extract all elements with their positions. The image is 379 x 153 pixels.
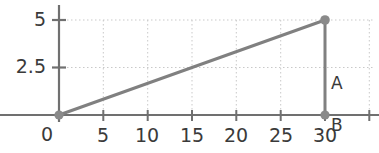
plot-area: 5 2.5 5 10 15 20 25 30 0 A B [0, 0, 379, 153]
annotation-label-a: A [331, 75, 343, 92]
annotation-label-b: B [331, 117, 343, 134]
x-tick-label-25: 25 [266, 126, 296, 145]
origin-label: 0 [41, 125, 53, 144]
marker-foot [320, 110, 329, 119]
y-tick-label-2-5: 2.5 [0, 57, 46, 76]
x-tick-label-15: 15 [177, 126, 207, 145]
x-tick-label-20: 20 [221, 126, 251, 145]
marker-top [320, 15, 330, 25]
horizontal-gridlines [59, 20, 375, 68]
chart-figure: 5 2.5 5 10 15 20 25 30 0 A B [0, 0, 379, 153]
y-tick-label-5: 5 [6, 10, 46, 29]
x-tick-label-10: 10 [132, 126, 162, 145]
x-tick-label-5: 5 [88, 126, 118, 145]
marker-origin [54, 110, 63, 119]
